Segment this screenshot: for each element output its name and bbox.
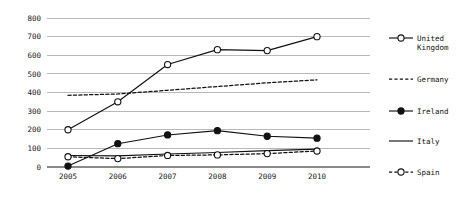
- y-axis-tick-label: 500: [27, 70, 41, 79]
- y-axis-tick-label: 200: [27, 125, 41, 134]
- legend-item-united-kingdom[interactable]: UnitedKingdom: [389, 34, 449, 53]
- legend-marker: [398, 108, 404, 114]
- series-line: [68, 37, 317, 130]
- data-point-marker: [214, 128, 220, 134]
- data-point-marker: [115, 99, 121, 105]
- y-axis-tick-label: 400: [27, 88, 41, 97]
- gridlines: [47, 18, 370, 167]
- x-axis-tick-label: 2010: [308, 172, 327, 181]
- legend-label: United: [417, 34, 444, 43]
- y-axis-tick-label: 800: [27, 14, 41, 23]
- x-axis-tick-labels: 200520062007200820092010: [59, 172, 327, 181]
- legend-label: Ireland: [417, 107, 449, 116]
- data-point-marker: [165, 61, 171, 67]
- x-axis-tick-label: 2006: [109, 172, 128, 181]
- chart-canvas: 0100200300400500600700800 20052006200720…: [0, 0, 465, 200]
- data-point-marker: [115, 141, 121, 147]
- x-axis-tick-label: 2008: [208, 172, 227, 181]
- x-axis-tick-label: 2005: [59, 172, 77, 181]
- legend-item-germany[interactable]: Germany: [389, 75, 449, 84]
- data-point-marker: [214, 152, 220, 158]
- data-point-marker: [264, 47, 270, 53]
- y-axis-tick-label: 100: [27, 144, 41, 153]
- y-axis-tick-label: 600: [27, 51, 41, 60]
- legend-item-italy[interactable]: Italy: [389, 137, 440, 146]
- series-united-kingdom: [65, 34, 320, 133]
- legend-marker: [398, 35, 404, 41]
- legend-label: Spain: [417, 168, 440, 177]
- data-point-marker: [314, 34, 320, 40]
- legend-marker: [398, 169, 404, 175]
- data-point-marker: [165, 132, 171, 138]
- data-point-marker: [65, 163, 71, 169]
- data-point-marker: [65, 127, 71, 133]
- data-point-marker: [314, 148, 320, 154]
- series-line: [68, 151, 317, 159]
- legend-label: Italy: [417, 137, 440, 146]
- data-point-marker: [165, 152, 171, 158]
- legend-item-ireland[interactable]: Ireland: [389, 107, 449, 116]
- y-axis-tick-label: 700: [27, 32, 41, 41]
- data-point-marker: [115, 156, 121, 162]
- legend-item-spain[interactable]: Spain: [389, 168, 440, 177]
- data-point-marker: [214, 47, 220, 53]
- x-axis-tick-label: 2007: [159, 172, 177, 181]
- legend-label: Germany: [417, 75, 449, 84]
- data-point-marker: [264, 150, 270, 156]
- data-point-marker: [264, 133, 270, 139]
- y-axis-tick-label: 300: [27, 107, 41, 116]
- legend-label-line2: Kingdom: [417, 43, 449, 52]
- data-point-marker: [314, 135, 320, 141]
- data-point-marker: [65, 154, 71, 160]
- x-axis-tick-label: 2009: [258, 172, 276, 181]
- y-axis-tick-labels: 0100200300400500600700800: [27, 14, 41, 172]
- chart-legend: UnitedKingdomGermanyIrelandItalySpain: [389, 34, 449, 177]
- line-chart: 0100200300400500600700800 20052006200720…: [0, 0, 465, 200]
- y-axis-tick-label: 0: [36, 163, 41, 172]
